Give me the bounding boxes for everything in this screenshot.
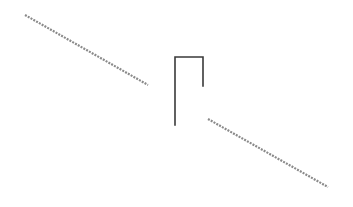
diagram-canvas	[0, 0, 353, 207]
right-hatched-segment	[208, 119, 328, 187]
left-hatched-segment	[25, 15, 148, 85]
bracket-shape	[175, 57, 203, 125]
